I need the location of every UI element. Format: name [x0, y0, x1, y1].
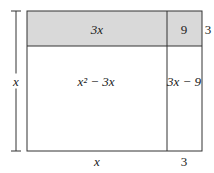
dimension-bottom-right: 3 — [181, 155, 188, 168]
dimension-left-side: x — [13, 74, 19, 89]
shaded-top-band — [27, 11, 202, 46]
region-label-top-left: 3x — [91, 23, 103, 36]
region-label-bottom-right: 3x − 9 — [167, 75, 201, 88]
dimension-bottom-left: x — [94, 155, 100, 168]
region-label-bottom-left: x² − 3x — [77, 75, 114, 88]
dimension-right-top: 3 — [205, 23, 212, 36]
region-label-top-right: 9 — [181, 23, 188, 36]
